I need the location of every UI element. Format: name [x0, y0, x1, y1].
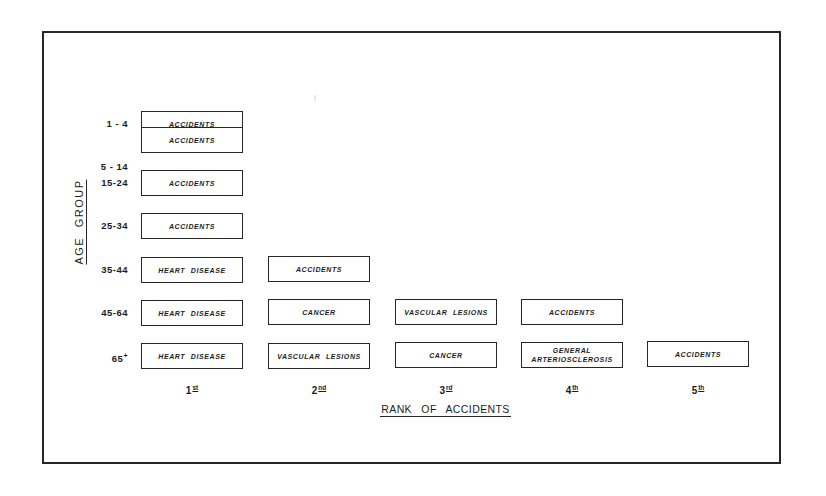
age-label-1-4: 1 - 4 [76, 118, 128, 130]
rank-label-5th: 5th [647, 382, 749, 397]
cause-box-45-64-rank4: ACCIDENTS [521, 299, 623, 325]
rank-number: 2 [312, 385, 318, 396]
cause-box-65-plus-rank5: ACCIDENTS [647, 341, 749, 367]
age-label-15-24: 15-24 [76, 177, 128, 189]
age-label-text: 25-34 [101, 220, 128, 231]
age-label-5-14: 5 - 14 [76, 161, 128, 173]
rank-label-2nd: 2nd [268, 382, 370, 397]
rank-ordinal-suffix: nd [318, 384, 326, 391]
cause-box-35-44-rank1: HEART DISEASE [141, 257, 243, 283]
age-label-text: 1 - 4 [106, 118, 128, 129]
age-label-text: 35-44 [101, 264, 128, 275]
rank-label-4th: 4th [521, 382, 623, 397]
rank-number: 4 [566, 385, 572, 396]
cause-box-25-34-rank1: ACCIDENTS [141, 213, 243, 239]
age-label-text: 45-64 [101, 307, 128, 318]
rank-ordinal-suffix: th [698, 384, 704, 391]
cause-box-45-64-rank3: VASCULAR LESIONS [395, 299, 497, 325]
cause-box-65-plus-rank4: GENERAL ARTERIOSCLEROSIS [521, 342, 623, 368]
age-label-35-44: 35-44 [76, 264, 128, 276]
cause-box-45-64-rank2: CANCER [268, 299, 370, 325]
cause-box-65-plus-rank3: CANCER [395, 342, 497, 368]
rank-label-3rd: 3rd [395, 382, 497, 397]
rank-ordinal-suffix: st [192, 384, 198, 391]
rank-number: 5 [692, 385, 698, 396]
cause-box-45-64-rank1: HEART DISEASE [141, 300, 243, 326]
x-axis-title: RANK OF ACCIDENTS [380, 403, 511, 417]
cause-box-65-plus-rank2: VASCULAR LESIONS [268, 343, 370, 369]
rank-number: 3 [439, 385, 445, 396]
cause-box-15-24-rank1: ACCIDENTS [141, 170, 243, 196]
cause-box-65-plus-rank1: HEART DISEASE [141, 343, 243, 369]
rank-ordinal-suffix: rd [446, 384, 453, 391]
rank-label-1st: 1st [141, 382, 243, 397]
age-label-sup: + [123, 352, 128, 359]
cause-box-35-44-rank2: ACCIDENTS [268, 256, 370, 282]
age-label-text: 15-24 [101, 177, 128, 188]
age-label-text: 5 - 14 [101, 161, 128, 172]
rank-ordinal-suffix: th [572, 384, 578, 391]
rank-number: 1 [186, 385, 192, 396]
age-label-25-34: 25-34 [76, 220, 128, 232]
age-label-45-64: 45-64 [76, 307, 128, 319]
age-label-text: 65 [112, 353, 124, 364]
age-label-65-plus: 65+ [76, 350, 128, 365]
diagram-frame [42, 31, 781, 464]
scan-artifact [314, 95, 316, 101]
cause-box-5-14-rank1: ACCIDENTS [141, 127, 243, 153]
